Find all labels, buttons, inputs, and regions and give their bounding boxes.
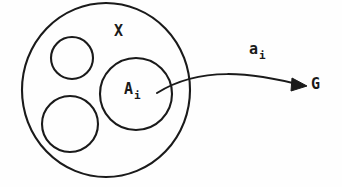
subset-circle-upper-left xyxy=(51,37,93,79)
diagram-drawing xyxy=(0,0,342,187)
label-set-X-base: X xyxy=(114,22,123,40)
label-set-X: X xyxy=(114,23,123,39)
label-map-ai: ai xyxy=(249,41,265,57)
label-map-ai-base: a xyxy=(249,40,258,58)
label-subset-Ai-base: A xyxy=(124,80,133,98)
label-map-ai-subscript: i xyxy=(259,49,266,62)
label-group-G-base: G xyxy=(311,75,320,93)
subset-circle-lower-left xyxy=(42,96,98,152)
map-arrowhead-icon xyxy=(291,78,307,91)
outer-circle-X xyxy=(22,3,190,177)
figure-canvas: X Ai ai G xyxy=(0,0,342,187)
label-subset-Ai-subscript: i xyxy=(134,89,141,102)
map-arrow-path xyxy=(157,74,304,93)
label-group-G: G xyxy=(311,76,320,92)
label-subset-Ai: Ai xyxy=(124,81,140,97)
